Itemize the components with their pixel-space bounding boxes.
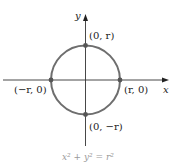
point-bottom-label: (0, −r) (89, 121, 123, 132)
y-axis-arrow-icon (83, 14, 88, 21)
point-top-label: (0, r) (89, 30, 114, 41)
circle-diagram: y x (0, r) (r, 0) (0, −r) (−r, 0) x² + y… (0, 0, 176, 167)
equation-caption: x² + y² = r² (62, 152, 114, 162)
x-axis-arrow-icon (162, 78, 169, 83)
point-right-label: (r, 0) (124, 84, 148, 95)
point-top (83, 43, 88, 48)
point-left (49, 78, 54, 83)
x-axis-label: x (163, 84, 169, 95)
point-left-label: (−r, 0) (14, 84, 47, 95)
y-axis-label: y (74, 10, 81, 21)
point-right (118, 78, 123, 83)
point-bottom (83, 112, 88, 117)
